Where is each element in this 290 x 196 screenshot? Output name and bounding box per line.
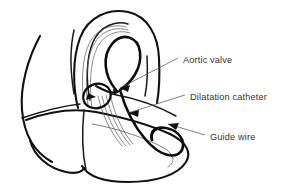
- heart-diagram-svg: Aortic valve Dilatation catheter Guide w…: [0, 0, 290, 196]
- medical-illustration-figure: Aortic valve Dilatation catheter Guide w…: [0, 0, 290, 196]
- label-aortic-valve: Aortic valve: [183, 55, 232, 65]
- leader-line-aortic-valve: [120, 58, 178, 88]
- left-ventricle-outline: [82, 134, 188, 182]
- ventricle-septum-contour: [83, 110, 86, 170]
- label-dilatation-catheter: Dilatation catheter: [190, 92, 267, 102]
- ventricle-apex-outline: [30, 140, 84, 173]
- guide-wire-shaft: [120, 90, 182, 155]
- left-atrium-outline: [22, 36, 52, 162]
- left-ventricle-upper-wall: [26, 110, 170, 134]
- label-guide-wire: Guide wire: [210, 132, 255, 142]
- leader-line-dilatation-catheter: [128, 95, 185, 113]
- aorta-lateral-inner-wall: [145, 56, 147, 96]
- guide-wire-arch-loop: [106, 37, 141, 90]
